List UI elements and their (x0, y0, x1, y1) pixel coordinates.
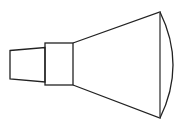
neck-trapezoid (10, 48, 45, 83)
face-arc (160, 12, 173, 118)
diagram-canvas (0, 0, 186, 125)
tube-outline-drawing (0, 0, 186, 125)
collar-rectangle (45, 43, 73, 85)
cone-outline (73, 12, 160, 118)
